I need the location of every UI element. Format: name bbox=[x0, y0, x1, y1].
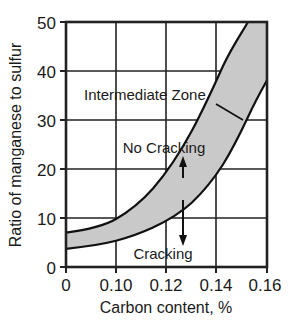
chart-canvas: 50 40 30 20 10 0 0 0.10 0.12 0.14 0.16 C… bbox=[0, 0, 288, 327]
x-axis-title: Carbon content, % bbox=[100, 299, 233, 316]
ytick-label-50: 50 bbox=[37, 14, 56, 33]
xtick-label-012: 0.12 bbox=[149, 276, 182, 295]
y-axis-title: Ratio of manganese to sulfur bbox=[7, 42, 24, 247]
xtick-label-016: 0.16 bbox=[248, 276, 281, 295]
ytick-label-0: 0 bbox=[47, 259, 56, 278]
annotation-cracking: Cracking bbox=[133, 245, 192, 262]
annotation-intermediate-zone: Intermediate Zone bbox=[84, 86, 206, 103]
ytick-label-10: 10 bbox=[37, 210, 56, 229]
chart-figure: 50 40 30 20 10 0 0 0.10 0.12 0.14 0.16 C… bbox=[0, 0, 288, 327]
xtick-label-0: 0 bbox=[61, 276, 70, 295]
ytick-label-40: 40 bbox=[37, 63, 56, 82]
xtick-label-010: 0.10 bbox=[99, 276, 132, 295]
ytick-label-20: 20 bbox=[37, 161, 56, 180]
xtick-label-014: 0.14 bbox=[199, 276, 232, 295]
ytick-label-30: 30 bbox=[37, 112, 56, 131]
annotation-no-cracking: No Cracking bbox=[123, 139, 206, 156]
